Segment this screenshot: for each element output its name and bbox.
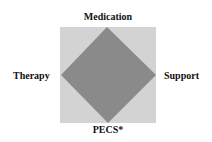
label-therapy: Therapy xyxy=(13,71,50,81)
label-support: Support xyxy=(164,71,199,81)
label-pecs: PECS* xyxy=(0,125,212,135)
label-medication: Medication xyxy=(0,12,212,22)
